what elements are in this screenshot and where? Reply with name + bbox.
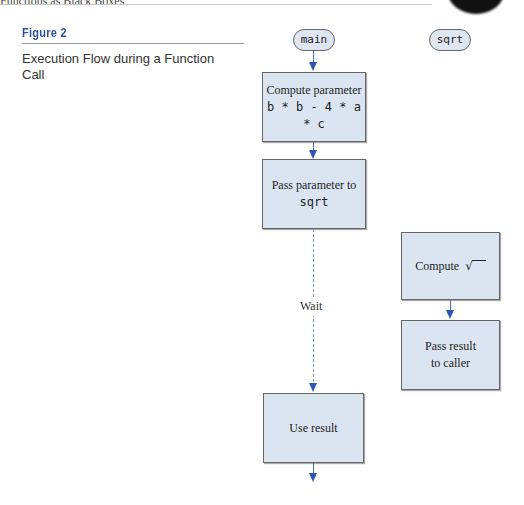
step-text-label: Compute <box>415 259 459 273</box>
step-use-result: Use result <box>263 393 364 463</box>
figure-rule <box>22 43 244 44</box>
arrowhead-icon <box>309 150 317 159</box>
step-text: Compute√ <box>415 258 486 275</box>
arrow-line <box>450 300 451 310</box>
step-text: Compute parameter <box>267 82 362 99</box>
arrowhead-icon <box>309 62 317 71</box>
arrowhead-icon <box>309 383 317 392</box>
step-text: Use result <box>289 420 337 437</box>
wait-label: Wait <box>300 297 322 316</box>
arrow-line <box>313 463 314 473</box>
sqrt-bar <box>472 260 486 261</box>
figure-label: Figure 2 <box>22 26 67 40</box>
lane-main-pill: main <box>293 29 335 51</box>
step-compute-parameter: Compute parameter b * b - 4 * a * c <box>262 72 366 142</box>
step-compute-sqrt: Compute√ <box>401 232 500 300</box>
corner-tab-decoration <box>448 0 504 14</box>
header-rule <box>0 4 432 5</box>
step-expression: b * b - 4 * a * c <box>263 99 365 133</box>
arrowhead-icon <box>446 310 454 319</box>
arrowhead-icon <box>309 473 317 482</box>
step-text: Pass parameter to <box>272 177 357 194</box>
lane-sqrt-pill: sqrt <box>429 29 471 51</box>
step-text: to caller <box>431 355 470 372</box>
figure-caption: Execution Flow during a Function Call <box>22 51 222 83</box>
arrow-line <box>313 142 314 150</box>
step-function-name: sqrt <box>300 194 329 211</box>
step-pass-result: Pass result to caller <box>401 320 500 390</box>
step-text: Pass result <box>425 338 476 355</box>
step-pass-parameter: Pass parameter to sqrt <box>262 159 366 229</box>
